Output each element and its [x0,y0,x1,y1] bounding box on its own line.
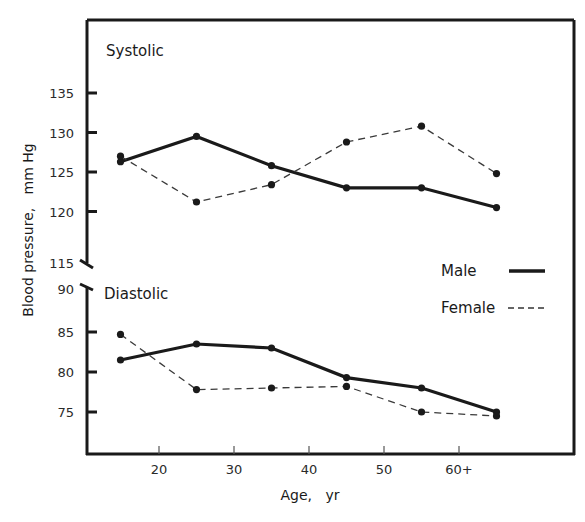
data-point [493,170,500,177]
x-tick-label: 20 [151,462,168,477]
data-point [493,204,500,211]
data-point [268,162,275,169]
legend: Male Female [441,262,545,317]
y-tick-label: 115 [49,256,74,271]
plot-frame [80,20,575,455]
x-axis-title: Age, yr [281,487,340,503]
y-tick-label: 125 [49,165,74,180]
x-tick-label: 60+ [445,462,472,477]
y-tick-label: 90 [57,282,74,297]
diastolic-y-axis: 85807590 [57,282,97,420]
data-point [343,184,350,191]
y-tick-label: 135 [49,86,74,101]
x-axis-ticks: 2030405060+ [151,446,473,477]
data-point [418,408,425,415]
y-axis-title: Blood pressure, mm Hg [20,143,36,316]
systolic-female-line [121,126,497,202]
data-point [493,412,500,419]
diastolic-male-line [121,344,497,412]
data-point [117,356,124,363]
y-tick-label: 120 [49,205,74,220]
y-tick-label: 130 [49,126,74,141]
systolic-male-line [121,136,497,207]
data-point [268,384,275,391]
data-point [193,133,200,140]
data-point [343,374,350,381]
data-point [117,331,124,338]
data-point [343,138,350,145]
y-tick-label: 80 [57,365,74,380]
legend-male-label: Male [441,262,477,280]
data-point [117,153,124,160]
blood-pressure-chart: 135130125120115 85807590 2030405060+ Sys… [0,0,585,522]
data-point [193,198,200,205]
data-point [193,340,200,347]
legend-female-label: Female [441,299,495,317]
data-point [268,181,275,188]
panel-label-systolic: Systolic [106,42,164,60]
data-point [193,386,200,393]
y-tick-label: 75 [57,405,74,420]
data-point [418,384,425,391]
y-tick-label: 85 [57,325,74,340]
x-tick-label: 40 [301,462,318,477]
panel-label-diastolic: Diastolic [104,285,168,303]
data-point [418,184,425,191]
data-point [343,383,350,390]
systolic-y-axis: 135130125120115 [49,86,97,271]
data-point [418,123,425,130]
x-tick-label: 30 [226,462,243,477]
data-point [268,344,275,351]
x-tick-label: 50 [376,462,393,477]
